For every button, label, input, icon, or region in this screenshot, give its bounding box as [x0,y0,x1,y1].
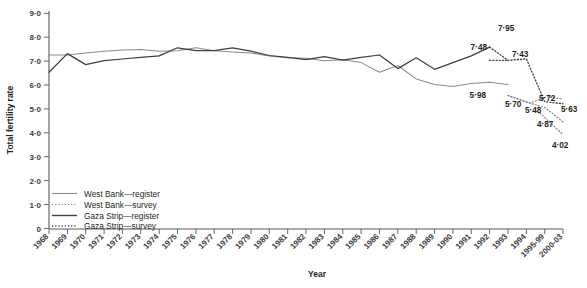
x-tick-label-1975: 1975 [160,232,179,251]
x-tick-label-1974: 1974 [142,232,161,251]
y-axis: 9·0 8·0 7·0 6·0 5·0 4·0 3·0 2·0 1·0 0 To… [5,9,49,233]
x-tick-label-1979: 1979 [233,232,252,251]
data-label-598: 5·98 [470,91,487,100]
x-tick-label-1981: 1981 [270,232,289,251]
x-tick-label-1972: 1972 [105,232,124,251]
x-tick-label-1984: 1984 [325,232,344,251]
data-label-548: 5·48 [525,106,542,115]
legend-label-west-bank-register: West Bank—register [84,189,160,199]
x-tick-label-1993: 1993 [490,232,509,251]
x-tick-label-1973: 1973 [123,232,142,251]
x-tick-label-1987: 1987 [380,232,399,251]
data-label-402: 4·02 [552,141,569,150]
data-label-570: 5·70 [505,100,522,109]
data-label-748: 7·48 [471,43,488,52]
data-label-563: 5·63 [561,105,578,114]
x-tick-label-1970: 1970 [68,232,87,251]
x-tick-label-1983: 1983 [307,232,326,251]
y-tick-label-4: 4·0 [29,129,41,138]
y-tick-label-6: 6·0 [29,81,41,90]
y-tick-label-8: 8·0 [29,33,41,42]
x-tick-label-1989: 1989 [417,232,436,251]
x-tick-label-1988: 1988 [399,232,418,251]
y-tick-label-7: 7·0 [29,57,41,66]
chart-canvas: 9·0 8·0 7·0 6·0 5·0 4·0 3·0 2·0 1·0 0 To… [0,0,587,288]
legend-item-west-bank-register: West Bank—register [52,189,160,199]
x-tick-label-1976: 1976 [178,232,197,251]
y-tick-label-2: 2·0 [29,177,41,186]
x-tick-label-1991: 1991 [454,232,473,251]
x-tick-label-1990: 1990 [435,232,454,251]
legend-item-gaza-strip-register: Gaza Strip—register [52,211,159,221]
x-tick-label-1980: 1980 [252,232,271,251]
x-tick-label-1978: 1978 [215,232,234,251]
y-tick-label-5: 5·0 [29,105,41,114]
y-tick-label-0: 0 [37,225,42,234]
legend-label-gaza-strip-register: Gaza Strip—register [84,211,159,221]
x-tick-label-1986: 1986 [362,232,381,251]
data-label-group: 7·95 7·48 7·43 5·72 5·63 5·98 5·70 5·48 … [470,24,578,150]
y-tick-label-1: 1·0 [29,201,41,210]
x-axis-title: Year [308,269,327,279]
x-tick-label-1969: 1969 [50,232,69,251]
y-tick-label-9: 9·0 [29,9,41,18]
legend-label-gaza-strip-survey: Gaza Strip—survey [84,221,157,231]
x-tick-label-1977: 1977 [197,232,216,251]
data-label-795: 7·95 [498,24,515,33]
x-tick-label-1992: 1992 [472,232,491,251]
x-tick-label-1982: 1982 [288,232,307,251]
legend-item-west-bank-survey: West Bank—survey [52,200,158,210]
data-label-487: 4·87 [537,120,554,129]
data-label-743: 7·43 [512,50,529,59]
data-label-572: 5·72 [539,94,556,103]
legend-label-west-bank-survey: West Bank—survey [84,200,158,210]
x-tick-label-1985: 1985 [344,232,363,251]
y-tick-label-3: 3·0 [29,153,41,162]
y-axis-title: Total fertility rate [5,86,15,155]
fertility-rate-chart: 9·0 8·0 7·0 6·0 5·0 4·0 3·0 2·0 1·0 0 To… [0,0,587,288]
x-axis: 1968 1969 1970 1971 1972 1973 1974 1975 … [31,229,564,279]
x-tick-label-1968: 1968 [31,232,50,251]
x-tick-label-1971: 1971 [87,232,106,251]
chart-legend: West Bank—register West Bank—survey Gaza… [52,189,160,232]
